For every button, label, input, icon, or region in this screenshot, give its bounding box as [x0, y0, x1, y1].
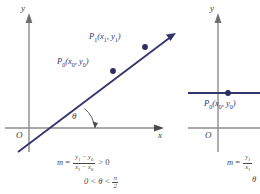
- num-y1-sub-right: 1: [248, 157, 250, 162]
- fraction-denominator: x1 − x0: [73, 163, 95, 173]
- p0-arg-close: ): [86, 56, 89, 66]
- formula-equals-right: =: [235, 157, 240, 167]
- point-p0-label: P0(x0, y0): [57, 57, 89, 68]
- slope-fraction: y1 − y0 x1 − x0: [73, 154, 95, 173]
- point-p0-dot: [110, 68, 116, 74]
- point-p1-label: P1(x1, y1): [89, 32, 121, 43]
- p0-arg-mid: , y: [75, 56, 83, 66]
- condition-frac-num: π: [112, 175, 118, 182]
- condition-left: 0 <: [84, 176, 98, 186]
- slope-formula-right: m = y1 x1: [227, 154, 253, 173]
- p0-arg-open: (x: [65, 56, 72, 66]
- angle-condition-right: θ: [252, 175, 256, 184]
- fraction-numerator-right: y1: [243, 154, 252, 163]
- fraction-denominator-right: x1: [243, 163, 252, 173]
- point-p0-label-right: P0(x0, y0): [204, 99, 236, 110]
- formula-lhs-right: m: [227, 157, 233, 167]
- p0r-arg-mid: , y: [222, 98, 230, 108]
- num-minus: − y: [80, 153, 91, 160]
- figure-right-clip: y O P0(x0, y0) m = y1 x1 θ: [180, 0, 260, 194]
- p0r-arg-open: (x: [212, 98, 219, 108]
- den-x0-sub: 0: [91, 167, 93, 172]
- y-axis-right: [215, 13, 222, 152]
- origin-label-right: O: [205, 131, 212, 140]
- condition-theta-right: θ: [252, 174, 256, 184]
- angle-arc: [85, 109, 99, 129]
- angle-condition: 0 < θ < π 2: [84, 175, 118, 190]
- den-x1-sub-right: 1: [248, 167, 250, 172]
- formula-lhs: m: [57, 157, 63, 167]
- den-minus: − x: [80, 163, 91, 170]
- p0r-arg-close: ): [233, 98, 236, 108]
- num-y0-sub: 0: [91, 157, 93, 162]
- formula-equals: =: [65, 157, 70, 167]
- sloped-line: [18, 33, 176, 152]
- formula-relation: > 0: [98, 157, 109, 167]
- condition-frac-den: 2: [112, 182, 118, 190]
- fraction-numerator: y1 − y0: [73, 154, 95, 163]
- slope-formula: m = y1 − y0 x1 − x0 > 0: [57, 154, 110, 173]
- condition-mid: <: [102, 176, 112, 186]
- slope-fraction-right: y1 x1: [243, 154, 252, 173]
- condition-fraction: π 2: [112, 175, 118, 190]
- p1-arg-close: ): [118, 31, 121, 41]
- figure-zero-slope: y O P0(x0, y0) m = y1 x1 θ: [180, 0, 260, 194]
- figure-positive-slope: y x O P1(x1, y1) P0(x0, y0) θ m = y1 − y…: [0, 0, 180, 194]
- point-p1-dot: [142, 44, 148, 50]
- p1-arg-open: (x: [97, 31, 104, 41]
- x-axis-label: x: [158, 131, 162, 140]
- y-axis-left: [26, 13, 33, 152]
- point-p0-dot-right: [225, 90, 231, 96]
- origin-label: O: [16, 131, 23, 140]
- p1-arg-mid: , y: [107, 31, 115, 41]
- y-axis-label-right: y: [210, 4, 214, 13]
- angle-theta-label: θ: [72, 112, 76, 121]
- y-axis-label: y: [21, 4, 25, 13]
